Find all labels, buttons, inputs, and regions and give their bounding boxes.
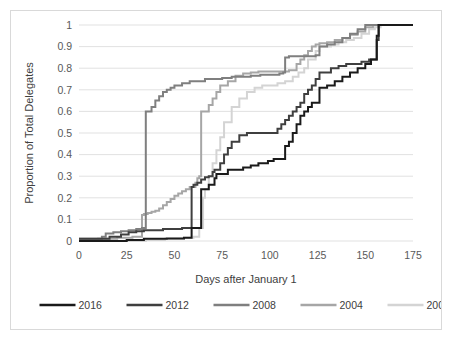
- y-tick-label: 0: [66, 235, 72, 247]
- chart-legend: 20162012200820042000: [40, 299, 442, 311]
- x-tick-label: 25: [121, 249, 133, 261]
- series-line-2012: [79, 25, 413, 239]
- chart-container: 00.10.20.30.40.50.60.70.80.91 0255075100…: [10, 10, 442, 330]
- y-axis-tick-labels: 00.10.20.30.40.50.60.70.80.91: [57, 19, 72, 247]
- x-axis-title: Days after January 1: [195, 273, 297, 285]
- y-tick-label: 0.2: [57, 192, 72, 204]
- y-axis-title: Proportion of Total Delegates: [23, 62, 35, 204]
- x-tick-label: 75: [216, 249, 228, 261]
- x-tick-label: 0: [76, 249, 82, 261]
- legend-label-2004: 2004: [340, 299, 364, 311]
- y-tick-label: 0.9: [57, 40, 72, 52]
- x-tick-label: 50: [169, 249, 181, 261]
- x-tick-label: 150: [357, 249, 375, 261]
- legend-item-2012[interactable]: 2012: [127, 299, 190, 311]
- legend-label-2012: 2012: [166, 299, 190, 311]
- y-tick-label: 0.3: [57, 170, 72, 182]
- x-tick-label: 125: [309, 249, 327, 261]
- legend-label-2016: 2016: [79, 299, 103, 311]
- y-tick-label: 0.5: [57, 127, 72, 139]
- y-tick-label: 0.4: [57, 148, 72, 160]
- legend-label-2000: 2000: [427, 299, 442, 311]
- legend-item-2016[interactable]: 2016: [40, 299, 103, 311]
- y-tick-label: 0.8: [57, 62, 72, 74]
- legend-item-2004[interactable]: 2004: [301, 299, 364, 311]
- series-line-2008: [79, 25, 413, 239]
- delegate-proportion-line-chart: 00.10.20.30.40.50.60.70.80.91 0255075100…: [11, 11, 441, 329]
- y-tick-label: 1: [66, 19, 72, 31]
- legend-label-2008: 2008: [253, 299, 277, 311]
- y-tick-label: 0.1: [57, 213, 72, 225]
- y-tick-label: 0.6: [57, 105, 72, 117]
- legend-item-2000[interactable]: 2000: [388, 299, 442, 311]
- x-axis-tick-labels: 0255075100125150175: [76, 249, 422, 261]
- x-tick-label: 175: [404, 249, 422, 261]
- y-tick-label: 0.7: [57, 84, 72, 96]
- legend-item-2008[interactable]: 2008: [214, 299, 277, 311]
- x-tick-label: 100: [261, 249, 279, 261]
